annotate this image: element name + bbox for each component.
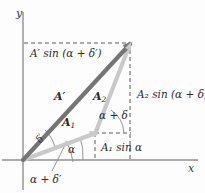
x-axis-label: x xyxy=(188,163,194,174)
right-projection-text: A₂ sin (α + δ) xyxy=(137,88,205,100)
vector-label-A1-base: A xyxy=(62,116,71,129)
vector-label-A2-sub: 2 xyxy=(102,95,107,104)
vector-label-A-prime: A′ xyxy=(54,91,65,102)
right-projection-label: A₂ sin (α + δ) xyxy=(137,89,205,100)
vector-label-A-prime-base: A xyxy=(54,90,63,103)
angle-label-alpha: α xyxy=(68,144,75,155)
phasor-vector-diagram: y x A′ sin (α + δ′) A₂ sin (α + δ) A₁ si… xyxy=(0,0,205,193)
angle-label-alpha-plus-delta: α + δ xyxy=(99,110,128,121)
y-axis-label: y xyxy=(16,8,22,19)
vector-label-A-prime-mark: ′ xyxy=(63,90,66,103)
angle-label-alpha-plus-delta-prime: α + δ′ xyxy=(30,174,61,185)
vector-label-A2: A2 xyxy=(93,91,106,104)
vector-label-A1-sub: 1 xyxy=(71,121,76,130)
lower-projection-text: A₁ sin α xyxy=(101,141,142,153)
vector-label-A1: A1 xyxy=(62,117,75,130)
top-projection-text: A′ sin (α + δ′) xyxy=(30,47,102,59)
lower-projection-label: A₁ sin α xyxy=(101,142,142,153)
vector-label-A2-base: A xyxy=(93,90,102,103)
top-projection-label: A′ sin (α + δ′) xyxy=(30,48,102,59)
